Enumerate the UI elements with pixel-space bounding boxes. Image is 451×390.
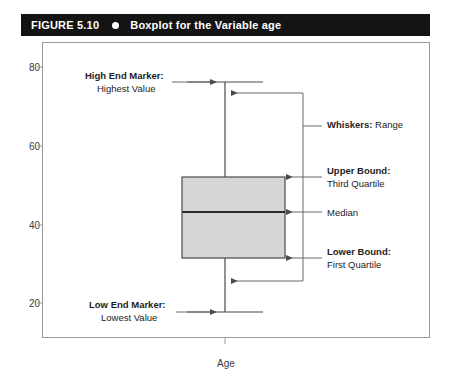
high-end-marker-title: High End Marker: <box>85 69 164 82</box>
low-end-marker-title: Low End Marker: <box>89 298 166 311</box>
y-tick-label-40: 40 <box>14 220 40 231</box>
annotation-whiskers: Whiskers: Range <box>327 118 403 131</box>
y-tick-label-60: 60 <box>14 141 40 152</box>
annotation-upper-bound: Upper Bound: Third Quartile <box>327 164 390 190</box>
high-end-marker-subtitle: Highest Value <box>85 82 164 95</box>
whiskers-title: Whiskers: <box>327 119 372 130</box>
lower-bound-subtitle: First Quartile <box>327 258 391 271</box>
annotation-low-end-marker: Low End Marker: Lowest Value <box>89 298 166 324</box>
whiskers-subtitle: Range <box>375 119 403 130</box>
low-end-marker-subtitle: Lowest Value <box>89 311 166 324</box>
figure-title: Boxplot for the Variable age <box>130 19 281 31</box>
annotation-median: Median <box>327 206 358 219</box>
figure-number-label: FIGURE 5.10 <box>31 19 99 31</box>
y-tick-label-80: 80 <box>14 62 40 73</box>
annotation-lower-bound: Lower Bound: First Quartile <box>327 245 391 271</box>
y-tick-label-20: 20 <box>14 298 40 309</box>
figure-caption-bar: FIGURE 5.10 Boxplot for the Variable age <box>21 14 430 36</box>
median-label: Median <box>327 207 358 218</box>
bullet-dot-icon <box>112 22 119 29</box>
figure-container: FIGURE 5.10 Boxplot for the Variable age… <box>0 0 451 390</box>
upper-bound-subtitle: Third Quartile <box>327 177 390 190</box>
lower-bound-title: Lower Bound: <box>327 246 391 257</box>
x-axis-title: Age <box>196 358 256 369</box>
annotation-high-end-marker: High End Marker: Highest Value <box>85 69 164 95</box>
upper-bound-title: Upper Bound: <box>327 165 390 176</box>
